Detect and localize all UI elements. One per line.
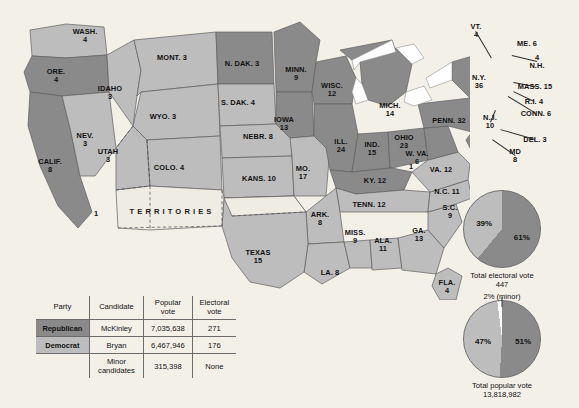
- electoral-pie-slice-label-republican: 61%: [514, 232, 530, 241]
- great-lake-4: [426, 62, 452, 88]
- leader-line-maryland: [492, 139, 516, 156]
- territories-label: TERRITORIES: [129, 207, 214, 216]
- state-shape-ndakota: [216, 32, 274, 84]
- state-shape-kansas: [222, 156, 294, 198]
- cell-electoral-vote: None: [192, 354, 236, 379]
- table-header-row: Party Candidate Popularvote Electoralvot…: [36, 296, 236, 320]
- marker-kentucky-split-elector: 1: [409, 162, 413, 171]
- leader-line-delaware: [500, 129, 535, 140]
- electoral-pie-total: 447: [496, 280, 509, 289]
- us-electoral-map: [0, 0, 470, 300]
- leader-line-connecticut: [508, 96, 537, 114]
- popular-vote-pie-block: 51% 47% Total popular vote 13,818,982: [427, 300, 577, 400]
- state-shape-sdakota: [218, 84, 276, 126]
- callout-label-new-hampshire: 4N.H.: [529, 54, 544, 70]
- header-candidate: Candidate: [89, 296, 144, 320]
- state-shape-louisiana: [304, 242, 350, 284]
- state-shape-colorado: [147, 136, 222, 190]
- leader-line-massachusetts: [513, 82, 535, 87]
- state-shape-washington: [30, 24, 107, 58]
- election-map-figure: WASH.4ORE.4CALIF.8NEV.3IDAHO3MONT. 3WYO.…: [0, 0, 579, 408]
- cell-party: [36, 354, 89, 379]
- leader-line-vermont: [475, 31, 492, 59]
- map-shapes: [0, 0, 470, 300]
- callout-votes-new-jersey: 10: [483, 122, 497, 130]
- state-shape-oregon: [24, 55, 109, 96]
- cell-party: Republican: [36, 320, 89, 337]
- cell-candidate: McKinley: [89, 320, 144, 337]
- electoral-vote-pie: 61% 39%: [463, 190, 541, 268]
- state-shape-newyork: [452, 52, 470, 102]
- state-votes-new-york: 36: [472, 82, 486, 90]
- marker-california-split-elector: 1: [94, 209, 98, 218]
- cell-popular-vote: 6,467,946: [144, 337, 192, 354]
- leader-line-new-jersey: [490, 110, 496, 122]
- callout-votes-maryland: 8: [509, 156, 521, 164]
- cell-electoral-vote: 176: [192, 337, 236, 354]
- state-label-maine: ME. 6: [517, 40, 537, 48]
- party-swatch-republican: Republican: [36, 320, 89, 336]
- popular-pie-total: 13,818,982: [483, 390, 521, 399]
- electoral-pie-slice-label-democrat: 39%: [476, 219, 492, 228]
- cell-popular-vote: 315,398: [144, 354, 192, 379]
- state-shape-alabama: [370, 238, 402, 270]
- state-name-new-york: N.Y.: [472, 74, 486, 82]
- popular-pie-caption: Total popular vote 13,818,982: [427, 381, 577, 400]
- cell-popular-vote: 7,035,638: [144, 320, 192, 337]
- table-row: DemocratBryan6,467,946176: [36, 337, 236, 354]
- election-results-table: Party Candidate Popularvote Electoralvot…: [36, 296, 236, 378]
- popular-vote-pie: 51% 47%: [463, 300, 541, 378]
- table-row: RepublicanMcKinley7,035,638271: [36, 320, 236, 337]
- table-row: Minor candidates315,398None: [36, 354, 236, 379]
- callout-label-connecticut: CONN. 6: [521, 110, 552, 118]
- callout-name-vermont: VT.: [471, 23, 482, 31]
- header-party: Party: [36, 296, 89, 320]
- electoral-pie-title: Total electoral vote: [470, 271, 533, 280]
- state-shape-indiana: [352, 132, 390, 172]
- state-label-new-york: N.Y.36: [472, 74, 486, 90]
- leader-line-new-hampshire: [512, 55, 537, 62]
- state-shape-maryland: [466, 132, 470, 148]
- header-popular-vote: Popularvote: [144, 296, 192, 320]
- electoral-vote-pie-block: 61% 39% Total electoral vote 447 2% (min…: [427, 190, 577, 301]
- popular-pie-slice-label-democrat: 47%: [475, 336, 491, 345]
- popular-pie-slice-label-republican: 51%: [515, 336, 531, 345]
- party-swatch-democrat: Democrat: [36, 337, 89, 353]
- cell-electoral-vote: 271: [192, 320, 236, 337]
- state-shape-wisconsin: [312, 56, 356, 104]
- cell-candidate: Minor candidates: [89, 354, 144, 379]
- cell-party: Democrat: [36, 337, 89, 354]
- header-electoral-vote: Electoralvote: [192, 296, 236, 320]
- callout-name-new-hampshire: N.H.: [529, 62, 544, 70]
- callout-label-maryland: MD8: [509, 148, 521, 164]
- electoral-pie-caption: Total electoral vote 447: [427, 271, 577, 290]
- state-shape-wyoming: [133, 84, 220, 140]
- minor-slice-tick: [502, 297, 503, 307]
- cell-candidate: Bryan: [89, 337, 144, 354]
- popular-pie-title: Total popular vote: [472, 381, 532, 390]
